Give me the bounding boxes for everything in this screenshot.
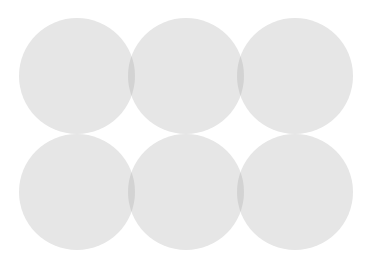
circle-top-right [237, 18, 353, 134]
circle-top-middle [128, 18, 244, 134]
circle-bottom-left [19, 134, 135, 250]
circle-top-left [19, 18, 135, 134]
circle-bottom-right [237, 134, 353, 250]
overlapping-circles-diagram [0, 0, 372, 266]
circle-bottom-middle [128, 134, 244, 250]
diagram-canvas [0, 0, 372, 266]
circle-layer [19, 18, 353, 250]
